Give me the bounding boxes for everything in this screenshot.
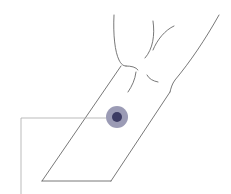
crease-mark [147,75,158,82]
leader-line [21,118,106,194]
biceps-curve [153,26,174,50]
elbow-crease-line [126,66,138,70]
forearm-right-edge [111,92,170,181]
arm-outline [42,15,219,181]
marker-inner-dot [112,112,122,122]
outer-arm-contour [170,15,219,92]
elbow-crease-line-2 [128,72,136,92]
biceps-contour [145,21,154,58]
injection-site-marker [106,106,128,128]
upper-arm-left-contour [114,15,126,66]
arm-diagram [0,0,231,194]
